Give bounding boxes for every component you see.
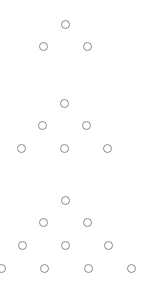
dot-pattern-diagram	[0, 0, 144, 293]
circle-icon	[18, 241, 27, 250]
circle-icon	[60, 99, 69, 108]
circle-icon	[82, 121, 91, 130]
circle-icon	[83, 218, 92, 227]
circle-icon	[103, 144, 112, 153]
circle-icon	[61, 196, 70, 205]
circle-icon	[61, 20, 70, 29]
circle-icon	[83, 42, 92, 51]
circle-icon	[0, 264, 6, 273]
circle-icon	[61, 241, 70, 250]
circle-icon	[104, 241, 113, 250]
circle-icon	[60, 144, 69, 153]
circle-icon	[17, 144, 26, 153]
circle-icon	[127, 264, 136, 273]
circle-icon	[38, 121, 47, 130]
circle-icon	[39, 218, 48, 227]
circle-icon	[40, 264, 49, 273]
circle-icon	[39, 42, 48, 51]
circle-icon	[84, 264, 93, 273]
